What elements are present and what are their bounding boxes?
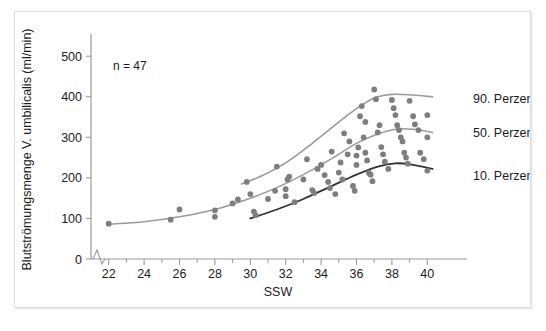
legend-label-2: 10. Perzentile: [473, 169, 530, 183]
x-tick-label-30: 30: [243, 267, 257, 281]
data-point: [341, 130, 347, 136]
data-point: [345, 151, 351, 157]
y-tick-label-100: 100: [61, 212, 82, 226]
data-point: [325, 179, 331, 185]
data-point: [417, 150, 423, 156]
data-point: [318, 162, 324, 168]
blood-flow-scatter-chart: 0100200300400500 22242628303234363840 90…: [15, 12, 530, 307]
y-axis-ticks: [86, 56, 91, 259]
x-tick-label-36: 36: [350, 267, 364, 281]
data-point: [332, 191, 338, 197]
legend: 90. Perzentile50. Perzentile10. Perzenti…: [473, 92, 530, 183]
data-point: [177, 207, 183, 213]
data-point: [329, 149, 335, 155]
data-point: [364, 158, 370, 164]
data-point: [421, 156, 427, 162]
data-point: [311, 190, 317, 196]
data-point: [168, 217, 174, 223]
data-point: [407, 98, 413, 104]
y-tick-label-200: 200: [61, 171, 82, 185]
data-point: [244, 179, 250, 185]
data-point: [338, 160, 344, 166]
data-point: [354, 153, 360, 159]
data-point: [393, 112, 399, 118]
data-point: [357, 113, 363, 119]
data-point: [377, 122, 383, 128]
data-point: [212, 214, 218, 220]
x-tick-label-22: 22: [102, 267, 116, 281]
data-point: [253, 212, 259, 218]
data-point: [352, 188, 358, 194]
x-axis-tick-labels: 22242628303234363840: [102, 267, 435, 281]
data-point: [327, 185, 333, 191]
x-tick-label-26: 26: [173, 267, 187, 281]
data-point: [396, 127, 402, 133]
data-point: [412, 121, 418, 127]
data-point: [380, 151, 386, 157]
data-point: [286, 174, 292, 180]
y-tick-label-400: 400: [61, 90, 82, 104]
data-point: [370, 178, 376, 184]
x-tick-label-40: 40: [420, 267, 434, 281]
data-point: [385, 166, 391, 172]
data-point: [292, 199, 298, 205]
data-point: [304, 156, 310, 162]
data-point: [339, 177, 345, 183]
y-tick-label-500: 500: [61, 50, 82, 64]
data-point: [378, 144, 384, 150]
data-point: [301, 177, 307, 183]
x-tick-label-34: 34: [314, 267, 328, 281]
data-point: [212, 207, 218, 213]
figure-frame: 0100200300400500 22242628303234363840 90…: [14, 11, 531, 308]
y-axis-group: 0100200300400500: [61, 34, 105, 267]
data-point: [247, 191, 253, 197]
data-point: [106, 221, 112, 227]
data-point: [382, 159, 388, 165]
data-point: [424, 112, 430, 118]
legend-label-1: 50. Perzentile: [473, 126, 530, 140]
data-point: [410, 113, 416, 119]
data-point: [336, 170, 342, 176]
sample-size-annotation: n = 47: [113, 59, 147, 73]
data-point: [265, 196, 271, 202]
data-point: [347, 138, 353, 144]
data-point: [359, 103, 365, 109]
data-point: [361, 134, 367, 140]
x-tick-label-24: 24: [137, 267, 151, 281]
y-axis-title: Blutströmungsmenge V. umbilicalis (ml/mi…: [20, 29, 34, 271]
percentile-curve-1: [109, 129, 433, 224]
data-point: [362, 150, 368, 156]
data-point: [368, 172, 374, 178]
data-point: [373, 96, 379, 102]
legend-label-0: 90. Perzentile: [473, 92, 530, 106]
data-point: [235, 196, 241, 202]
data-point: [424, 168, 430, 174]
y-tick-label-300: 300: [61, 131, 82, 145]
x-axis-group: 22242628303234363840: [91, 259, 467, 281]
data-point: [355, 145, 361, 151]
data-point: [389, 97, 395, 103]
data-point: [322, 172, 328, 178]
data-point: [283, 186, 289, 192]
data-point: [403, 155, 409, 161]
scatter-points: [106, 87, 430, 227]
y-tick-label-0: 0: [75, 253, 82, 267]
y-axis-tick-labels: 0100200300400500: [61, 50, 82, 267]
x-tick-label-38: 38: [385, 267, 399, 281]
data-point: [405, 161, 411, 167]
data-point: [416, 127, 422, 133]
data-point: [354, 162, 360, 168]
data-point: [283, 193, 289, 199]
data-point: [391, 105, 397, 111]
data-point: [424, 134, 430, 140]
x-axis-ticks: [109, 259, 428, 265]
data-point: [274, 164, 280, 170]
x-tick-label-28: 28: [208, 267, 222, 281]
x-axis-title: SSW: [264, 285, 293, 299]
data-point: [375, 130, 381, 136]
data-point: [400, 138, 406, 144]
data-point: [230, 201, 236, 207]
data-point: [371, 87, 377, 93]
axis-break-symbol: [93, 250, 105, 264]
x-tick-label-32: 32: [279, 267, 293, 281]
